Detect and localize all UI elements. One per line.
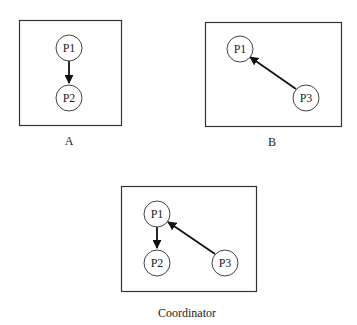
node-coord-p3: P3 (212, 250, 238, 276)
wait-for-graph-figure: P1 P2 A P1 P3 B P1 P2 (0, 0, 357, 325)
node-coord-p2: P2 (144, 250, 170, 276)
coordinator-frame (122, 187, 257, 292)
node-b-p1: P1 (227, 36, 253, 62)
edge-b-p3-to-p1 (250, 57, 296, 89)
diagram-a: P1 P2 A (20, 21, 122, 149)
node-label: P3 (219, 256, 232, 270)
diagram-b-caption: B (268, 135, 276, 149)
node-a-p2: P2 (56, 85, 82, 111)
diagram-b-frame (206, 23, 342, 127)
diagram-coordinator: P1 P2 P3 Coordinator (122, 187, 257, 321)
node-a-p1: P1 (56, 35, 82, 61)
edge-coord-p3-to-p1 (168, 222, 215, 254)
node-label: P2 (63, 91, 76, 105)
node-b-p3: P3 (293, 85, 319, 111)
node-label: P1 (63, 41, 76, 55)
node-label: P1 (234, 42, 247, 56)
node-coord-p1: P1 (144, 201, 170, 227)
diagram-a-caption: A (65, 134, 74, 148)
node-label: P2 (151, 256, 164, 270)
coordinator-caption: Coordinator (158, 306, 216, 320)
node-label: P1 (151, 207, 164, 221)
node-label: P3 (300, 91, 313, 105)
diagram-b: P1 P3 B (206, 23, 342, 150)
